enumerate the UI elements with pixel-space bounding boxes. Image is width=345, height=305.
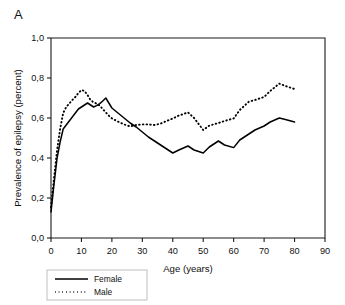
epilepsy-prevalence-line-chart: 0,00,20,40,60,81,0 0102030405060708090 A… — [0, 0, 345, 305]
y-tick-label: 0,6 — [31, 113, 44, 123]
series-group — [51, 84, 295, 212]
plot-frame — [51, 38, 325, 238]
legend-label-female: Female — [94, 274, 122, 284]
x-tick-label: 90 — [320, 246, 330, 256]
x-tick-label: 80 — [289, 246, 299, 256]
figure-panel: A 0,00,20,40,60,81,0 0102030405060708090… — [0, 0, 345, 305]
x-tick-label: 10 — [76, 246, 86, 256]
x-tick-label: 60 — [229, 246, 239, 256]
series-line-female — [51, 98, 295, 212]
x-axis-ticks: 0102030405060708090 — [48, 238, 330, 256]
y-axis-title: Prevalence of epilepsy (percent) — [12, 69, 23, 207]
series-line-male — [51, 84, 295, 207]
legend-label-male: Male — [94, 287, 112, 297]
x-tick-label: 0 — [48, 246, 53, 256]
y-tick-label: 0,2 — [31, 193, 44, 203]
y-tick-label: 0,8 — [31, 73, 44, 83]
x-axis-title: Age (years) — [163, 263, 213, 274]
x-tick-label: 50 — [198, 246, 208, 256]
legend: Female Male — [47, 270, 147, 300]
y-tick-label: 1,0 — [31, 33, 44, 43]
y-tick-label: 0,0 — [31, 233, 44, 243]
x-tick-label: 20 — [107, 246, 117, 256]
y-axis-ticks: 0,00,20,40,60,81,0 — [31, 33, 51, 243]
x-tick-label: 70 — [259, 246, 269, 256]
x-tick-label: 30 — [137, 246, 147, 256]
y-tick-label: 0,4 — [31, 153, 44, 163]
x-tick-label: 40 — [168, 246, 178, 256]
